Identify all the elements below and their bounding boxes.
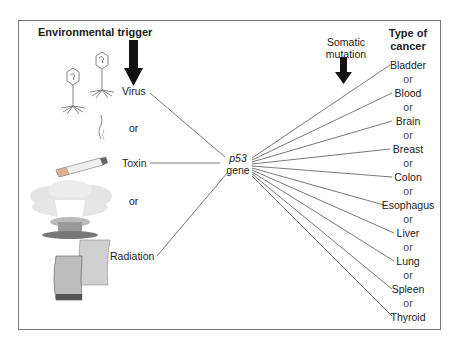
cancer-item: Thyroid (378, 310, 438, 324)
gene-suffix: gene (222, 164, 254, 176)
cancer-type-list: Bladder or Blood or Brain or Breast or C… (378, 58, 438, 324)
or-connector: or (378, 240, 438, 254)
trigger-virus-label: Virus (122, 85, 146, 97)
nuclear-plant-icon (30, 180, 112, 300)
or-connector: or (129, 195, 138, 207)
down-arrow-icon (124, 40, 143, 86)
or-connector: or (378, 184, 438, 198)
cancer-item: Blood (378, 86, 438, 100)
or-connector: or (378, 128, 438, 142)
cancer-item: Breast (378, 142, 438, 156)
cancer-item: Lung (378, 254, 438, 268)
or-connector: or (129, 122, 138, 134)
cancer-type-header-line1: Type of (382, 27, 434, 39)
bacteriophage-icon (61, 52, 114, 114)
or-connector: or (378, 156, 438, 170)
or-connector: or (378, 100, 438, 114)
cancer-item: Colon (378, 170, 438, 184)
down-arrow-icon (335, 57, 352, 84)
cancer-item: Bladder (378, 58, 438, 72)
trigger-toxin-label: Toxin (122, 157, 147, 169)
cigarette-icon (56, 115, 108, 177)
environmental-trigger-header: Environmental trigger (38, 26, 152, 38)
gene-name: p53 (222, 152, 254, 164)
somatic-mutation-header-line1: Somatic (318, 36, 374, 48)
or-connector: or (378, 72, 438, 86)
cancer-item: Liver (378, 226, 438, 240)
cancer-item: Esophagus (378, 198, 438, 212)
cancer-item: Spleen (378, 282, 438, 296)
cancer-item: Brain (378, 114, 438, 128)
or-connector: or (378, 268, 438, 282)
trigger-radiation-label: Radiation (110, 250, 154, 262)
cancer-type-header-line2: cancer (382, 40, 434, 52)
somatic-mutation-header-line2: mutation (318, 48, 374, 60)
or-connector: or (378, 212, 438, 226)
or-connector: or (378, 296, 438, 310)
